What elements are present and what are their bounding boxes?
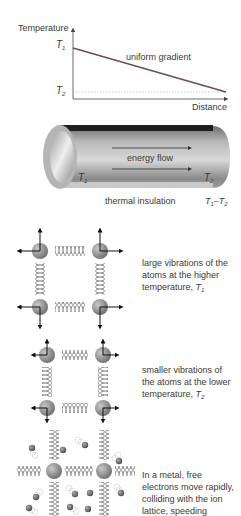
- hot-lattice-graphic: [15, 225, 135, 325]
- temperature-difference-label: T1–T2: [205, 197, 228, 207]
- graph-axes: [0, 0, 241, 110]
- cold-lattice-description: smaller vibrations of the atoms at the l…: [142, 364, 237, 403]
- cold-lattice-graphic: [30, 335, 150, 425]
- pipe-t1-label: T1: [78, 173, 87, 184]
- metal-lattice-graphic: [15, 430, 140, 516]
- metal-lattice-description: In a metal, free electrons move rapidly,…: [142, 469, 238, 516]
- hot-lattice-description: large vibrations of the atoms at the hig…: [142, 257, 237, 296]
- energy-flow-label: energy flow: [127, 154, 173, 163]
- insulation-label: thermal insulation: [105, 197, 176, 206]
- pipe-t2-label: T2: [204, 173, 213, 184]
